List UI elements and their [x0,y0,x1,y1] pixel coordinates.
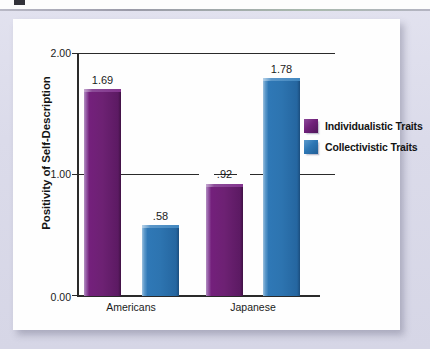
bar-japanese-individualistic[interactable]: .92 [206,184,243,296]
bar-fill [263,78,300,296]
figure-page: Positivity of Self-Description 2.00 1.00… [0,0,430,349]
bar-chart: Positivity of Self-Description 2.00 1.00… [13,19,400,330]
x-category-label-japanese: Japanese [230,301,276,313]
gridline-200 [77,53,335,54]
x-category-label-americans: Americans [106,301,156,313]
chart-legend: Individualistic Traits Collectivistic Tr… [304,116,423,158]
legend-label-individualistic: Individualistic Traits [325,120,423,132]
y-tick-200: 2.00 [25,47,71,59]
legend-item-individualistic[interactable]: Individualistic Traits [304,116,423,135]
legend-swatch-icon-collectivistic [304,140,318,154]
bar-value-label: .58 [153,210,168,222]
page-top-rule [0,9,430,11]
legend-label-collectivistic: Collectivistic Traits [325,141,418,153]
bar-value-label: 1.78 [271,63,292,75]
bar-top-cap [84,89,121,92]
bar-fill [84,89,121,296]
bar-top-cap [206,184,243,187]
legend-swatch-icon-individualistic [304,119,318,133]
bar-americans-collectivistic[interactable]: .58 [142,225,179,296]
bar-value-label: .92 [217,168,232,180]
bar-japanese-collectivistic[interactable]: 1.78 [263,78,300,296]
bar-fill [142,225,179,296]
bar-americans-individualistic[interactable]: 1.69 [84,89,121,296]
y-tick-000: 0.00 [25,291,71,303]
figure-card: Positivity of Self-Description 2.00 1.00… [13,19,400,330]
y-axis-title: Positivity of Self-Description [40,58,52,248]
bar-value-label: 1.69 [92,74,113,86]
bar-fill [206,184,243,296]
bar-top-cap [142,225,179,228]
y-tick-100: 1.00 [25,168,71,180]
legend-item-collectivistic[interactable]: Collectivistic Traits [304,137,423,156]
bar-top-cap [263,78,300,81]
cropped-header-glyph-icon [14,0,25,5]
